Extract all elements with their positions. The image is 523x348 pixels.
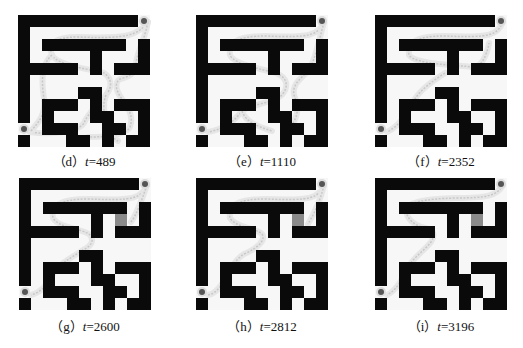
maze-wall (316, 63, 328, 75)
maze-wall (304, 178, 316, 190)
maze-wall (268, 99, 280, 111)
maze-wall (447, 15, 459, 27)
maze-wall (447, 214, 459, 226)
maze-wall (411, 202, 423, 214)
maze-wall (292, 123, 304, 135)
maze-wall (280, 178, 292, 190)
maze-wall (423, 226, 435, 238)
maze-wall (268, 63, 280, 75)
maze-wall (43, 226, 55, 238)
start-marker-icon (199, 289, 205, 295)
maze-wall (244, 262, 256, 274)
maze-wall (208, 226, 220, 238)
maze-wall (91, 202, 103, 214)
maze-wall (292, 286, 304, 298)
maze-wall (423, 39, 435, 51)
maze-wall (103, 298, 115, 310)
maze-wall (114, 123, 126, 135)
maze-wall (126, 135, 138, 147)
trajectory-paths (19, 178, 151, 310)
maze-wall (196, 274, 208, 286)
maze-wall (292, 15, 304, 27)
maze-wall (316, 286, 328, 298)
maze-wall (316, 51, 328, 63)
maze-wall (268, 250, 280, 262)
maze-wall (79, 178, 91, 190)
maze-wall (139, 298, 151, 310)
maze-wall (126, 15, 138, 27)
maze-wall (268, 111, 280, 123)
maze-wall (196, 298, 208, 310)
maze-panel-h (196, 178, 328, 310)
maze-wall (139, 286, 151, 298)
maze-wall (459, 274, 471, 286)
maze-wall (423, 63, 435, 75)
maze-wall (268, 202, 280, 214)
maze-wall (459, 178, 471, 190)
maze-wall (387, 15, 399, 27)
maze-wall (78, 87, 90, 99)
maze-wall (115, 226, 127, 238)
maze-wall (220, 99, 232, 111)
maze-wall (375, 274, 387, 286)
maze-wall (18, 111, 30, 123)
maze-wall (232, 262, 244, 274)
maze-wall (316, 298, 328, 310)
maze-wall (375, 111, 387, 123)
maze-wall (375, 75, 387, 87)
maze-wall (435, 178, 447, 190)
maze-wall (280, 135, 292, 147)
maze-wall (55, 202, 67, 214)
maze-wall (232, 178, 244, 190)
maze-wall (256, 39, 268, 51)
maze-wall (78, 15, 90, 27)
maze-wall (18, 75, 30, 87)
maze-wall (19, 262, 31, 274)
goal-marker-icon (498, 18, 504, 24)
maze-wall (54, 39, 66, 51)
maze-wall (43, 178, 55, 190)
maze-wall (280, 39, 292, 51)
maze-wall (67, 178, 79, 190)
maze-wall (220, 123, 232, 135)
maze-wall (304, 135, 316, 147)
maze-wall (19, 214, 31, 226)
maze-wall (268, 39, 280, 51)
maze-wall (138, 111, 150, 123)
maze-wall (42, 123, 54, 135)
maze-wall (399, 262, 411, 274)
maze-wall (292, 226, 304, 238)
maze-wall (423, 262, 435, 274)
maze-wall (375, 262, 387, 274)
maze-wall (495, 202, 507, 214)
maze-wall (316, 262, 328, 274)
maze-wall (256, 135, 268, 147)
maze-wall (447, 274, 459, 286)
maze-wall (196, 202, 208, 214)
maze-wall (78, 39, 90, 51)
maze-wall (220, 111, 232, 123)
maze-wall (79, 298, 91, 310)
start-marker-icon (22, 289, 28, 295)
maze-wall (280, 298, 292, 310)
maze-wall (447, 262, 459, 274)
maze-wall (399, 99, 411, 111)
maze-wall (459, 39, 471, 51)
maze-wall (495, 298, 507, 310)
maze-wall (103, 286, 115, 298)
maze-wall (91, 250, 103, 262)
maze-wall (483, 99, 495, 111)
maze-wall (435, 202, 447, 214)
maze-wall (138, 135, 150, 147)
maze-wall (66, 15, 78, 27)
maze-wall (435, 250, 447, 262)
maze-wall (79, 250, 91, 262)
maze-wall (447, 63, 459, 75)
maze-wall (316, 111, 328, 123)
maze-wall (127, 226, 139, 238)
start-marker-icon (199, 126, 205, 132)
maze-wall (280, 15, 292, 27)
maze-wall (375, 214, 387, 226)
maze-wall (292, 63, 304, 75)
maze-wall (244, 178, 256, 190)
